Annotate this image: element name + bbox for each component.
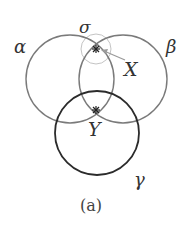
caption: (a)	[80, 196, 102, 215]
star-marker-x	[92, 45, 100, 53]
label-sigma: σ	[79, 17, 91, 37]
label-beta: β	[165, 36, 176, 57]
label-y: Y	[88, 118, 103, 140]
venn-diagram: α β σ X Y γ (a)	[0, 0, 188, 228]
star-marker-y	[92, 106, 100, 114]
label-alpha: α	[14, 36, 26, 57]
label-gamma: γ	[134, 169, 145, 190]
label-x: X	[122, 58, 139, 80]
circle-alpha	[26, 35, 114, 123]
